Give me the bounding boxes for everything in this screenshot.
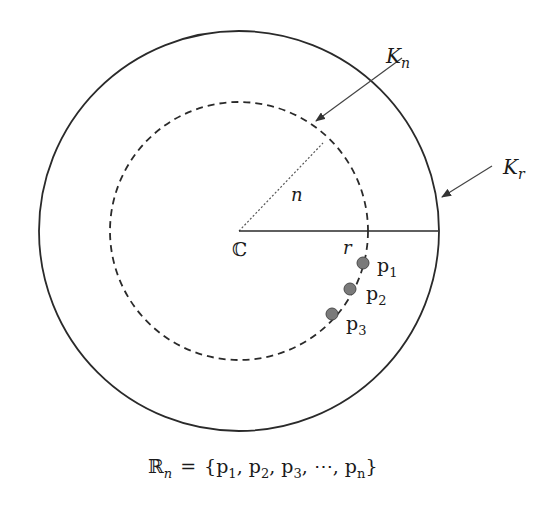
center-label: ℂ: [232, 238, 247, 260]
radius-r-label: r: [343, 237, 353, 258]
radius-n-label: n: [291, 184, 303, 205]
concentric-circles-diagram: Kn Kr n r ℂ p1 p2 p3 ℝn={p1, p2, p3, ⋯, …: [0, 0, 556, 510]
point-p1: p1: [357, 254, 397, 280]
point-p1-dot: [357, 257, 369, 269]
point-p1-label: p1: [377, 254, 397, 280]
point-p3-dot: [326, 308, 338, 320]
kr-arrow: [442, 166, 492, 197]
point-p3-label: p3: [346, 312, 366, 338]
point-p2: p2: [344, 282, 386, 308]
set-formula: ℝn={p1, p2, p3, ⋯, pn}: [148, 455, 378, 481]
radius-n-line: [239, 143, 323, 231]
formula-lhs: ℝ: [148, 455, 164, 477]
kn-label: Kn: [385, 44, 410, 71]
kr-label: Kr: [502, 155, 526, 182]
point-p3: p3: [326, 308, 366, 338]
point-p2-dot: [344, 283, 356, 295]
point-p2-label: p2: [366, 282, 386, 308]
